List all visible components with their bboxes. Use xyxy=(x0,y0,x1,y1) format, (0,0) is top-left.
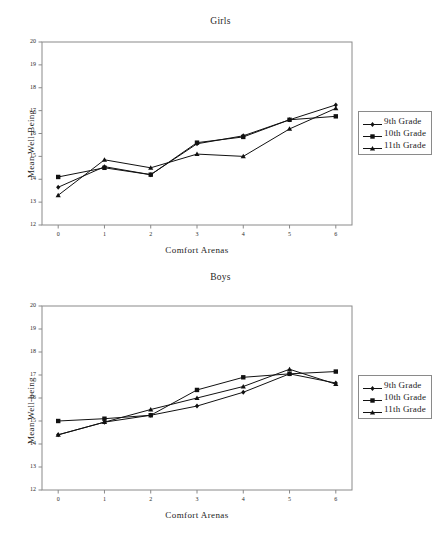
legend-item-10th-grade: 10th Grade xyxy=(362,391,426,403)
x-tick-label: 2 xyxy=(144,496,158,502)
x-axis-title-boys: Comfort Arenas xyxy=(42,510,352,520)
y-tick-label: 15 xyxy=(20,152,36,158)
y-tick-label: 16 xyxy=(20,130,36,136)
legend-marker-diamond-icon xyxy=(362,380,383,391)
y-tick-label: 12 xyxy=(20,221,36,227)
y-tick-label: 18 xyxy=(20,84,36,90)
legend-label-11th-grade: 11th Grade xyxy=(383,404,426,414)
legend-item-11th-grade: 11th Grade xyxy=(362,139,426,151)
legend-marker-square-icon xyxy=(362,392,383,403)
chart-figure-girls: Girls Comfort Arenas Mean Well-Being 9th… xyxy=(0,0,441,272)
legend-item-10th-grade: 10th Grade xyxy=(362,127,426,139)
chart-figure-boys: Boys Comfort Arenas Mean Well-being 9th … xyxy=(0,268,441,548)
y-tick-label: 19 xyxy=(20,61,36,67)
y-tick-label: 15 xyxy=(20,417,36,423)
x-tick-label: 3 xyxy=(190,231,204,237)
legend-marker-triangle-icon xyxy=(362,404,383,415)
x-tick-label: 6 xyxy=(329,496,343,502)
legend-label-9th-grade: 9th Grade xyxy=(383,380,422,390)
legend-label-10th-grade: 10th Grade xyxy=(383,392,426,402)
x-tick-label: 6 xyxy=(329,231,343,237)
y-axis-title-girls: Mean Well-Being xyxy=(26,110,36,178)
legend-boys: 9th Grade 10th Grade 11th Grade xyxy=(358,375,432,419)
y-tick-label: 17 xyxy=(20,107,36,113)
y-tick-label: 20 xyxy=(20,302,36,308)
y-tick-label: 14 xyxy=(20,440,36,446)
legend-marker-diamond-icon xyxy=(362,116,383,127)
legend-marker-triangle-icon xyxy=(362,140,383,151)
y-tick-label: 14 xyxy=(20,175,36,181)
x-axis-title-girls: Comfort Arenas xyxy=(42,245,352,255)
x-tick-label: 0 xyxy=(51,231,65,237)
legend-girls: 9th Grade 10th Grade 11th Grade xyxy=(358,111,432,155)
y-tick-label: 13 xyxy=(20,463,36,469)
y-tick-label: 12 xyxy=(20,486,36,492)
legend-item-9th-grade: 9th Grade xyxy=(362,115,426,127)
x-tick-label: 4 xyxy=(236,231,250,237)
x-tick-label: 5 xyxy=(283,231,297,237)
legend-marker-square-icon xyxy=(362,128,383,139)
legend-item-11th-grade: 11th Grade xyxy=(362,403,426,415)
y-tick-label: 18 xyxy=(20,348,36,354)
y-tick-label: 17 xyxy=(20,371,36,377)
x-tick-label: 1 xyxy=(97,231,111,237)
legend-item-9th-grade: 9th Grade xyxy=(362,379,426,391)
x-tick-label: 5 xyxy=(283,496,297,502)
x-tick-label: 2 xyxy=(144,231,158,237)
x-tick-label: 1 xyxy=(97,496,111,502)
legend-label-11th-grade: 11th Grade xyxy=(383,140,426,150)
y-tick-label: 19 xyxy=(20,325,36,331)
y-tick-label: 20 xyxy=(20,38,36,44)
y-tick-label: 13 xyxy=(20,198,36,204)
legend-label-10th-grade: 10th Grade xyxy=(383,128,426,138)
y-tick-label: 16 xyxy=(20,394,36,400)
legend-label-9th-grade: 9th Grade xyxy=(383,116,422,126)
y-axis-title-boys: Mean Well-being xyxy=(26,377,36,444)
x-tick-label: 3 xyxy=(190,496,204,502)
x-tick-label: 4 xyxy=(236,496,250,502)
x-tick-label: 0 xyxy=(51,496,65,502)
